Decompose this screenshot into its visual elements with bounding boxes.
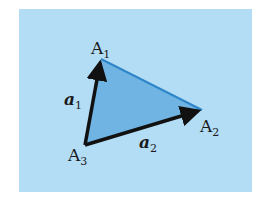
triangle-diagram: A1 A2 A3 a1 a2 bbox=[0, 0, 264, 204]
vertex-label-a3: A3 bbox=[67, 145, 87, 168]
vertex-label-a1: A1 bbox=[90, 38, 110, 61]
vector-label-a2: a2 bbox=[139, 132, 157, 155]
vertex-label-a2: A2 bbox=[199, 116, 219, 139]
vector-label-a1: a1 bbox=[64, 89, 82, 112]
